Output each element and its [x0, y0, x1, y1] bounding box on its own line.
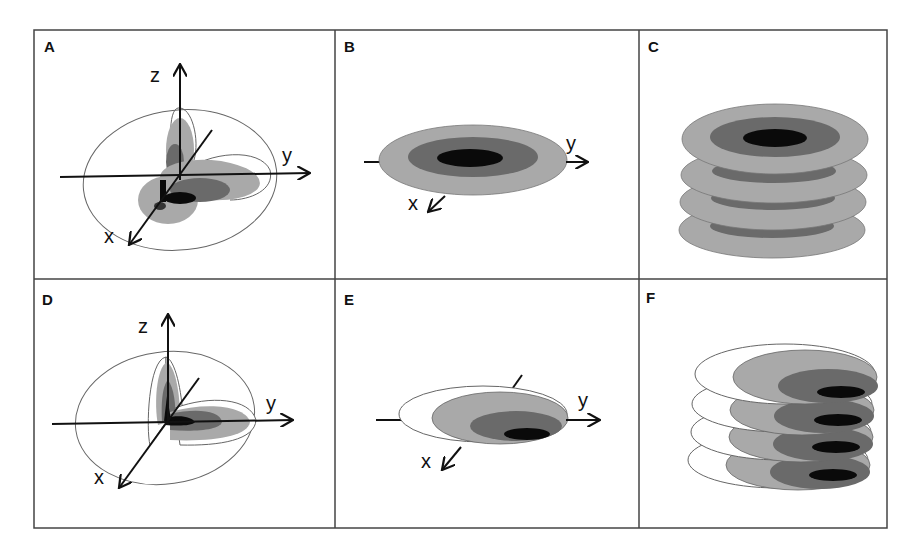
x-label: x [94, 466, 104, 488]
panel-a: A z y x [44, 38, 310, 260]
x-label: x [421, 450, 431, 472]
panel-label-d: D [42, 291, 53, 308]
x-axis [442, 447, 461, 470]
panel-d: D z y x [42, 291, 293, 496]
panel-f: F [646, 289, 878, 490]
panel-label-b: B [344, 38, 355, 55]
panel-label-f: F [646, 289, 655, 306]
panel-e: E y x [344, 291, 600, 472]
figure: A z y x B y x C [0, 0, 919, 557]
panel-b: B y x [344, 38, 588, 214]
panel-c: C [648, 38, 868, 258]
y-label: y [578, 389, 588, 411]
x-label: x [104, 225, 114, 247]
slice-1 [682, 104, 868, 174]
panel-label-e: E [344, 291, 354, 308]
x-label: x [408, 192, 418, 214]
y-label: y [566, 132, 576, 154]
panel-label-c: C [648, 38, 659, 55]
z-label: z [150, 64, 160, 86]
y-label: y [266, 392, 276, 414]
z-label: z [138, 315, 148, 337]
y-label: y [282, 144, 292, 166]
x-axis [428, 196, 445, 212]
slice-1 [695, 344, 878, 404]
panel-label-a: A [44, 38, 55, 55]
